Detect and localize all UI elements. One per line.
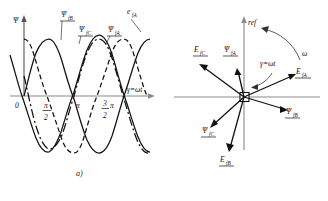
tick-pi-over-2: π 2 — [43, 101, 52, 122]
phasor-e-fa-arrowhead — [288, 74, 296, 80]
y-axis-label: Ψ — [13, 16, 19, 25]
phasor-e-fa-base: E — [295, 67, 301, 76]
phasor-psi-fc-base: Ψ — [202, 126, 208, 135]
omega-rotation-arc: ω — [261, 26, 307, 60]
tick-pi-over-2-numerator: π — [44, 101, 48, 110]
phasor-e-fb-base: E — [219, 155, 225, 164]
y-axis-arrowhead — [21, 15, 26, 22]
label-psi-fb-sub: fB — [68, 15, 73, 21]
phasor-psi-fa-arrowhead — [235, 68, 242, 75]
phasor-e-fa-sub: fA — [302, 72, 307, 78]
tick-three-halves-pi: 3 2 π — [102, 99, 115, 120]
phasor-psi-fb-base: Ψ — [286, 107, 292, 116]
phasor-e-fb-arrowhead — [226, 143, 234, 152]
reference-axis: ref — [241, 16, 257, 150]
phasor-svg: ref ω γ=ωt — [168, 0, 328, 168]
label-psi-fc-sub: fC — [86, 30, 91, 36]
omega-label: ω — [302, 49, 307, 58]
label-psi-fb-base: Ψ — [61, 10, 67, 19]
phasor-psi-fc-arrowhead — [210, 119, 218, 128]
label-e-fa-sub: fA — [132, 12, 137, 18]
phasor-psi-fb: Ψ fB — [244, 97, 300, 118]
gamma-arrowhead — [251, 84, 258, 90]
phasor-psi-fc: Ψ fC — [201, 97, 244, 137]
phasor-e-fc-sub: fC — [200, 50, 205, 56]
label-psi-fa-base: Ψ — [108, 25, 114, 34]
label-psi-fa-sub: fA — [115, 30, 120, 36]
phasor-e-fb: E fB — [219, 97, 244, 166]
phasor-psi-fa-sub: fA — [231, 50, 236, 56]
label-psi-fc-base: Ψ — [79, 25, 85, 34]
x-axis-label: γ=ωt — [127, 85, 143, 94]
phasor-psi-fa-base: Ψ — [224, 45, 230, 54]
reference-axis-arrowhead — [241, 16, 246, 23]
figure-root: Ψ γ=ωt 0 π 2 π 3 2 π — [0, 0, 328, 201]
caption-a: a) — [76, 169, 83, 178]
reference-axis-label: ref — [248, 18, 257, 27]
tick-three-halves-pi-symbol: π — [110, 101, 114, 110]
x-axis-arrowhead — [148, 93, 155, 98]
tick-pi-over-2-denominator: 2 — [44, 113, 48, 122]
x-axis — [10, 93, 155, 98]
label-e-fa: e fA — [127, 7, 141, 32]
phasor-e-fb-sub: fB — [226, 160, 231, 166]
phasor-psi-fb-sub: fB — [293, 112, 298, 118]
label-e-fa-base: e — [127, 7, 131, 16]
phasor-psi-fc-sub: fC — [209, 131, 214, 137]
label-psi-fb: Ψ fB — [60, 10, 75, 40]
gamma-angle-arc: γ=ωt — [251, 59, 276, 90]
origin-label: 0 — [15, 101, 19, 110]
phasor-e-fc-base: E — [193, 45, 199, 54]
tick-three-halves-denominator: 2 — [103, 111, 107, 120]
tick-three-halves-numerator: 3 — [102, 99, 107, 108]
panel-b-phasor-diagram: ref ω γ=ωt — [168, 0, 328, 201]
phasor-e-fa: E fA — [244, 67, 311, 97]
waveform-svg: Ψ γ=ωt 0 π 2 π 3 2 π — [0, 0, 168, 168]
omega-arrowhead — [261, 26, 269, 33]
panel-a-waveform-chart: Ψ γ=ωt 0 π 2 π 3 2 π — [0, 0, 168, 201]
gamma-label: γ=ωt — [260, 59, 276, 68]
